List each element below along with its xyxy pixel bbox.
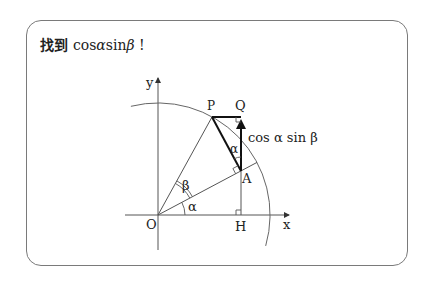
point-label-Q: Q xyxy=(235,98,246,113)
angle-label-beta-O: β xyxy=(182,178,190,193)
x-axis-label: x xyxy=(283,217,291,232)
segment-label-cos-alpha-sin-beta: cos α sin β xyxy=(248,130,318,145)
angle-label-alpha-A: α xyxy=(230,142,238,156)
point-label-P: P xyxy=(207,99,215,113)
angle-arc-alpha-O xyxy=(182,202,185,215)
angle-label-alpha-O: α xyxy=(188,199,197,214)
point-label-O: O xyxy=(146,217,157,232)
point-label-A: A xyxy=(241,171,252,186)
right-angle-H xyxy=(236,210,241,215)
unit-circle-diagram: y x O P Q A H α β α cos α sin β xyxy=(0,0,428,285)
y-axis-label: y xyxy=(145,75,154,90)
point-label-H: H xyxy=(235,219,246,234)
